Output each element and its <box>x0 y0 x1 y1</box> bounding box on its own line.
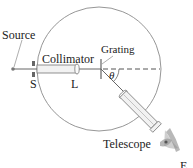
telescope-label: Telescope <box>103 137 151 151</box>
lens-label: L <box>71 77 78 91</box>
source-leader-line <box>14 40 22 67</box>
collimator-tube <box>37 65 77 73</box>
telescope-tube-midline <box>124 95 154 125</box>
eye-label: E <box>180 159 187 168</box>
source-point <box>11 67 15 71</box>
source-label: Source <box>2 28 35 42</box>
spectrometer-diagram: Source Collimator Grating S L θ Telescop… <box>0 0 193 168</box>
angle-theta-label: θ <box>109 69 115 81</box>
slit-label: S <box>30 77 37 91</box>
eye-icon <box>160 128 180 152</box>
collimator-label: Collimator <box>42 52 94 66</box>
slit-upper-block <box>32 61 35 66</box>
grating-label: Grating <box>101 43 135 55</box>
grating-leader-line <box>102 56 113 64</box>
